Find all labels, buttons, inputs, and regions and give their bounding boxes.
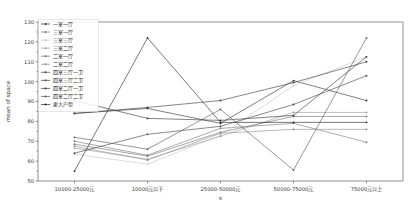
legend-label: 一室一厅 <box>53 21 73 27</box>
legend-label: 三室一厅 <box>53 29 73 35</box>
x-tick-label: 10000-25000元 <box>55 186 95 193</box>
x-axis-title: x <box>219 195 223 201</box>
data-point <box>147 37 149 39</box>
y-tick-label: 110 <box>24 59 34 65</box>
legend-label: 四室二厅二卫 <box>53 93 83 99</box>
legend-label: 四室三厅一卫 <box>53 69 83 75</box>
data-point <box>147 155 149 157</box>
y-tick-label: 80 <box>27 118 34 124</box>
y-tick-label: 130 <box>24 19 34 25</box>
data-point <box>293 104 295 106</box>
y-tick-label: 70 <box>27 138 34 144</box>
y-tick-label: 90 <box>27 98 34 104</box>
data-point <box>220 132 222 134</box>
figure: 5060708090100110120130mean of space10000… <box>0 0 413 223</box>
legend-marker <box>45 79 47 81</box>
data-point <box>366 121 368 123</box>
legend-marker <box>45 31 47 33</box>
x-tick-label: 10000元以下 <box>132 186 164 193</box>
series <box>74 112 368 161</box>
legend-marker <box>45 39 47 41</box>
legend-marker <box>45 23 47 25</box>
y-axis: 5060708090100110120130 <box>24 19 38 184</box>
x-tick-label: 75000元以上 <box>351 185 383 193</box>
data-point <box>366 75 368 77</box>
legend-label: 三室二厅 <box>53 45 73 51</box>
x-tick-label: 25000-50000元 <box>201 186 241 193</box>
legend-marker <box>45 71 47 73</box>
data-point <box>366 61 368 63</box>
data-point <box>293 169 295 171</box>
data-point <box>74 136 76 138</box>
series <box>74 128 368 161</box>
y-axis-title: mean of space <box>5 80 12 122</box>
legend-label: 四室三厅二卫 <box>53 77 83 83</box>
data-point <box>366 56 368 58</box>
x-axis: 10000-25000元10000元以下25000-50000元50000-75… <box>55 181 383 193</box>
legend-marker <box>45 63 47 65</box>
legend-marker <box>45 96 47 98</box>
data-point <box>220 125 222 127</box>
legend-label: 二室二厅 <box>53 61 73 67</box>
legend-marker <box>45 104 47 106</box>
legend-label: 更大户型 <box>53 101 73 108</box>
data-point <box>220 127 222 129</box>
data-point <box>147 117 149 119</box>
y-tick-label: 100 <box>24 79 34 85</box>
data-point <box>147 133 149 135</box>
data-point <box>74 152 76 154</box>
data-point <box>220 119 222 121</box>
data-point <box>74 113 76 115</box>
data-point <box>220 135 222 137</box>
legend-label: 四室二厅一卫 <box>53 85 83 91</box>
data-point <box>74 147 76 149</box>
data-point <box>366 112 368 114</box>
y-tick-label: 50 <box>27 178 34 184</box>
data-point <box>147 159 149 161</box>
data-point <box>366 141 368 143</box>
data-point <box>220 121 222 123</box>
data-point <box>366 116 368 118</box>
y-tick-label: 120 <box>24 39 34 45</box>
series <box>74 37 368 171</box>
chart-canvas: 5060708090100110120130mean of space10000… <box>0 0 413 223</box>
legend-label: 三室三厅 <box>53 37 73 43</box>
legend-marker <box>45 47 47 49</box>
y-tick-label: 60 <box>27 158 34 164</box>
data-point <box>74 140 76 142</box>
data-point <box>74 170 76 172</box>
data-point <box>293 82 295 84</box>
data-point <box>293 128 295 130</box>
series <box>74 75 368 154</box>
x-tick-label: 50000-75000元 <box>274 186 314 193</box>
legend: 一室一厅三室一厅三室三厅三室二厅二室一厅二室二厅四室三厅一卫四室三厅二卫四室二厅… <box>39 20 99 112</box>
line-chart: 5060708090100110120130mean of space10000… <box>0 0 413 223</box>
data-point <box>147 107 149 109</box>
series <box>74 37 368 172</box>
data-point <box>293 85 295 87</box>
data-point <box>293 80 295 82</box>
legend-marker <box>45 87 47 89</box>
data-point <box>366 37 368 39</box>
data-point <box>293 121 295 123</box>
data-point <box>366 128 368 130</box>
series-group <box>74 37 368 172</box>
data-point <box>220 109 222 111</box>
legend-label: 二室一厅 <box>53 53 73 59</box>
data-point <box>293 115 295 117</box>
data-point <box>293 112 295 114</box>
data-point <box>74 145 76 147</box>
data-point <box>147 163 149 165</box>
data-point <box>147 148 149 150</box>
data-point <box>220 100 222 102</box>
data-point <box>366 100 368 102</box>
series <box>74 80 368 125</box>
legend-marker <box>45 55 47 57</box>
data-point <box>74 143 76 145</box>
series <box>74 61 368 114</box>
